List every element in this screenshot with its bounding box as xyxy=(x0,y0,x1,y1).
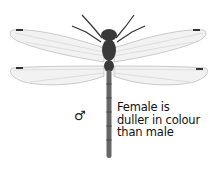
caption: Female is duller in colour than male xyxy=(117,101,200,139)
dragonfly-illustration xyxy=(0,0,219,170)
dragonfly-body xyxy=(101,29,117,72)
caption-line: than male xyxy=(117,126,200,139)
abdomen xyxy=(107,70,112,158)
male-symbol: ♂ xyxy=(74,108,86,123)
caption-line: Female is xyxy=(117,101,200,114)
